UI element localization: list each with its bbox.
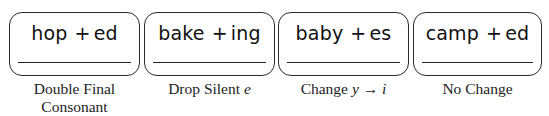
arrow-right-icon: → xyxy=(363,80,379,97)
rule-label-text: No Change xyxy=(442,80,512,97)
suffix: ed xyxy=(94,22,118,44)
base-word: camp xyxy=(426,22,479,44)
plus-sign: + xyxy=(486,22,502,44)
word-card-baby: baby+es xyxy=(278,12,409,76)
base-word: hop xyxy=(31,22,67,44)
rule-label-letter: e xyxy=(244,80,251,97)
rule-label-letter-2: i xyxy=(382,80,386,97)
word-card-bake: bake+ing xyxy=(144,12,275,76)
rule-label-text: Change xyxy=(301,80,352,97)
answer-blank[interactable] xyxy=(153,62,266,63)
answer-blank[interactable] xyxy=(18,62,131,63)
base-word: bake xyxy=(158,22,205,44)
answer-blank[interactable] xyxy=(422,62,533,63)
rule-label-no-change: No Change xyxy=(413,80,542,98)
plus-sign: + xyxy=(212,22,228,44)
word-card-hop: hop+ed xyxy=(9,12,140,76)
word-problem: camp+ed xyxy=(414,22,541,44)
suffix: es xyxy=(369,22,391,44)
rule-label-text: Drop Silent xyxy=(168,80,244,97)
rule-label-drop-silent-e: Drop Silent e xyxy=(144,80,275,98)
rule-label-change-y-to-i: Change y → i xyxy=(278,80,409,98)
suffix: ing xyxy=(231,22,261,44)
word-problem: hop+ed xyxy=(10,22,139,44)
plus-sign: + xyxy=(75,22,91,44)
word-card-camp: camp+ed xyxy=(413,12,542,76)
rule-label-line2: Consonant xyxy=(9,98,140,116)
rule-label-double-final-consonant: Double Final Consonant xyxy=(9,80,140,116)
word-problem: baby+es xyxy=(279,22,408,44)
word-problem: bake+ing xyxy=(145,22,274,44)
rule-label-letter: y xyxy=(352,80,359,97)
rule-label-line1: Double Final xyxy=(9,80,140,98)
base-word: baby xyxy=(296,22,344,44)
plus-sign: + xyxy=(350,22,366,44)
suffix: ed xyxy=(505,22,529,44)
answer-blank[interactable] xyxy=(287,62,400,63)
